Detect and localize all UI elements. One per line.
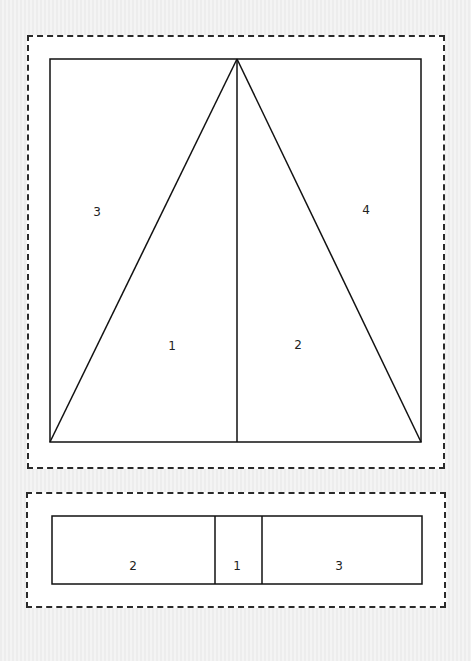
bottom-label-3: 3: [335, 559, 343, 573]
triangle-left-edge: [50, 59, 237, 442]
top-label-1: 1: [168, 339, 176, 353]
bottom-label-1: 1: [233, 559, 241, 573]
top-label-4: 4: [362, 203, 370, 217]
top-frame: [50, 59, 421, 442]
triangle-right-edge: [237, 59, 421, 442]
bottom-frame: [52, 516, 422, 584]
bottom-label-2: 2: [129, 559, 137, 573]
top-label-3: 3: [93, 205, 101, 219]
top-label-2: 2: [294, 338, 302, 352]
